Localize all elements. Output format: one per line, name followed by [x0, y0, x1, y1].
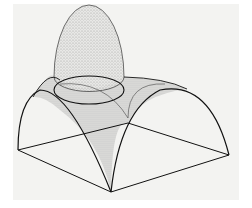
- dome-on-pendentives-illustration: [0, 0, 252, 208]
- dome: [54, 5, 124, 92]
- base-square: [18, 123, 229, 192]
- figure: Dome on pendentives: [0, 0, 252, 208]
- pendentive-surface: [33, 76, 187, 192]
